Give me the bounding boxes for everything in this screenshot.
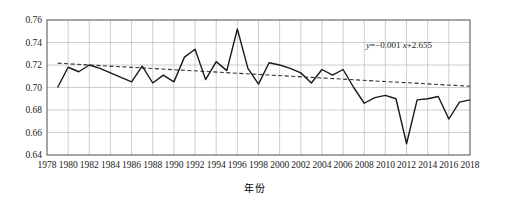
y-tick-label: 0.70 bbox=[25, 83, 42, 93]
y-tick-label: 0.66 bbox=[25, 128, 42, 138]
y-axis-tick-labels: 0.640.660.680.700.720.740.76 bbox=[25, 15, 42, 160]
x-tick-label: 2006 bbox=[334, 160, 353, 170]
x-tick-label: 1998 bbox=[249, 160, 268, 170]
y-tick-label: 0.72 bbox=[25, 60, 42, 70]
x-tick-label: 1992 bbox=[186, 160, 205, 170]
chart-container: 年平均密集度 年份 0.640.660.680.700.720.740.76 1… bbox=[0, 0, 509, 204]
equation-text: y=−0.001 x+2.655 bbox=[365, 40, 432, 50]
x-tick-label: 2010 bbox=[376, 160, 395, 170]
line-chart-plot: 0.640.660.680.700.720.740.76 19781980198… bbox=[0, 0, 509, 204]
x-tick-label: 1978 bbox=[38, 160, 57, 170]
x-axis-tick-labels: 1978198019821984198619881990199219941996… bbox=[38, 160, 480, 170]
x-tick-label: 1990 bbox=[164, 160, 183, 170]
x-tick-label: 2012 bbox=[397, 160, 416, 170]
y-tick-label: 0.68 bbox=[25, 105, 42, 115]
x-tick-label: 1980 bbox=[59, 160, 78, 170]
x-tick-label: 1996 bbox=[228, 160, 247, 170]
y-tick-label: 0.64 bbox=[25, 150, 42, 160]
x-tick-label: 2000 bbox=[270, 160, 289, 170]
x-tick-label: 1988 bbox=[143, 160, 162, 170]
x-tick-label: 1986 bbox=[122, 160, 141, 170]
x-tick-label: 2002 bbox=[291, 160, 310, 170]
x-tick-label: 2018 bbox=[461, 160, 480, 170]
x-tick-label: 2008 bbox=[355, 160, 374, 170]
trend-equation-annotation: y=−0.001 x+2.655 bbox=[365, 40, 432, 50]
y-tick-label: 0.76 bbox=[25, 15, 42, 25]
x-tick-label: 2014 bbox=[418, 160, 437, 170]
x-tick-label: 1982 bbox=[80, 160, 99, 170]
x-tick-label: 1984 bbox=[101, 160, 120, 170]
x-tick-label: 2016 bbox=[439, 160, 458, 170]
y-tick-label: 0.74 bbox=[25, 38, 42, 48]
x-tick-label: 1994 bbox=[207, 160, 226, 170]
x-tick-label: 2004 bbox=[312, 160, 331, 170]
